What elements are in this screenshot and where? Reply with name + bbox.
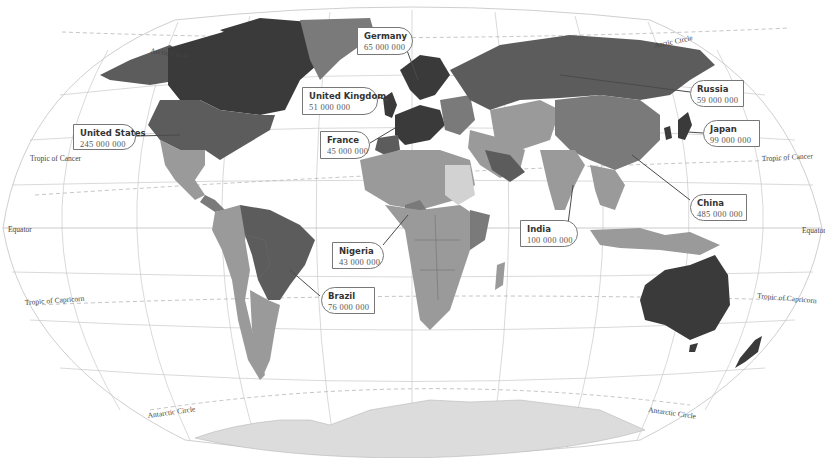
callout-name: India [527, 224, 571, 235]
callout-name: France [327, 135, 363, 146]
callout-value: 100 000 000 [527, 235, 571, 246]
svg-text:Tropic of Cancer: Tropic of Cancer [762, 151, 814, 163]
callout-value: 59 000 000 [697, 95, 737, 106]
callout-germany: Germany 65 000 000 [357, 27, 413, 55]
callout-value: 65 000 000 [364, 42, 406, 53]
callout-value: 51 000 000 [309, 102, 371, 113]
callout-name: China [697, 198, 740, 209]
svg-text:Equator: Equator [802, 226, 825, 235]
callout-nigeria: Nigeria 43 000 000 [332, 242, 384, 269]
callout-name: Nigeria [339, 246, 377, 257]
callout-name: United States [80, 128, 129, 139]
callout-brazil: Brazil 76 000 000 [321, 287, 375, 314]
callout-name: United Kingdom [309, 91, 371, 102]
callout-china: China 485 000 000 [690, 194, 747, 221]
callout-name: Germany [364, 31, 406, 42]
callout-value: 99 000 000 [710, 135, 753, 146]
callout-value: 43 000 000 [339, 257, 377, 268]
callout-value: 485 000 000 [697, 209, 740, 220]
callout-value: 45 000 000 [327, 146, 363, 157]
callout-value: 76 000 000 [328, 302, 368, 313]
callout-name: Japan [710, 124, 753, 135]
callout-japan: Japan 99 000 000 [703, 120, 760, 147]
svg-text:Equator: Equator [8, 225, 32, 234]
world-map: Arctic Circle Arctic Circle Tropic of Ca… [0, 0, 825, 458]
callout-france: France 45 000 000 [320, 131, 370, 159]
callout-name: Brazil [328, 291, 368, 302]
callout-name: Russia [697, 84, 737, 95]
callout-united-kingdom: United Kingdom 51 000 000 [302, 87, 378, 115]
callout-russia: Russia 59 000 000 [690, 80, 744, 107]
svg-text:Tropic of Cancer: Tropic of Cancer [30, 154, 81, 163]
callout-value: 245 000 000 [80, 139, 129, 150]
callout-india: India 100 000 000 [520, 220, 578, 247]
callout-united-states: United States 245 000 000 [73, 124, 136, 150]
